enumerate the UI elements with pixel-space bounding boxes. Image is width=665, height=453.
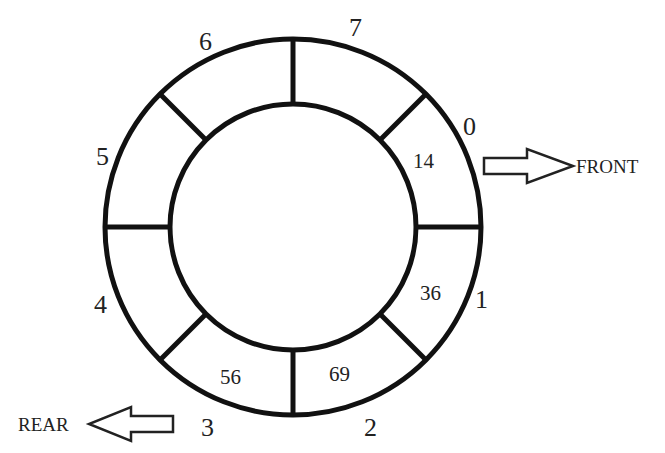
- slot-value-2: 69: [329, 362, 350, 386]
- slot-value-3: 56: [220, 365, 241, 389]
- rear-label: REAR: [18, 414, 69, 435]
- circular-queue-diagram: 14 36 69 56 0 1 2 3 4 5 6 7 FRONT REAR: [0, 0, 665, 453]
- divider-7-0: [380, 94, 426, 140]
- slot-value-0: 14: [413, 149, 435, 173]
- slot-index-4: 4: [94, 290, 107, 319]
- divider-3-4: [160, 314, 206, 360]
- rear-arrow-icon: [89, 407, 173, 441]
- slot-value-1: 36: [420, 281, 441, 305]
- divider-1-2: [380, 314, 426, 360]
- front-arrow-icon: [484, 149, 573, 183]
- slot-index-1: 1: [475, 285, 488, 314]
- slot-index-7: 7: [349, 13, 362, 42]
- slot-index-5: 5: [96, 142, 109, 171]
- slot-index-3: 3: [201, 413, 214, 442]
- slot-index-0: 0: [463, 112, 476, 141]
- divider-5-6: [160, 94, 206, 140]
- slot-index-6: 6: [199, 27, 212, 56]
- front-label: FRONT: [576, 156, 639, 177]
- inner-ring: [170, 104, 416, 350]
- slot-index-2: 2: [364, 413, 377, 442]
